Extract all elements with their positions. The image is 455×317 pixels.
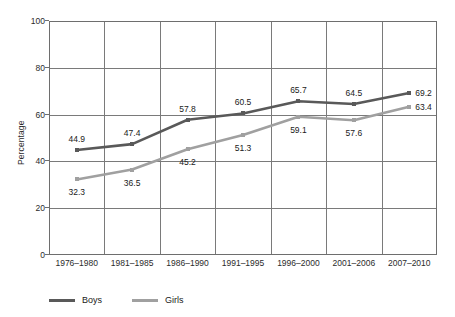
gridline-vertical [326, 22, 327, 254]
y-axis-tick-label: 60 [36, 111, 45, 120]
x-axis-tick-labels: 1976–19801981–19851986–19901991–19951996… [49, 259, 437, 275]
x-axis-tick-label: 1976–1980 [49, 259, 104, 268]
y-axis-tick-label: 20 [36, 204, 45, 213]
gridline-horizontal [50, 115, 436, 116]
y-axis-tick-label: 100 [31, 17, 45, 26]
legend-label: Girls [165, 296, 184, 305]
x-axis-tick-label: 1986–1990 [160, 259, 215, 268]
gridline-vertical [382, 22, 383, 254]
gridline-vertical [215, 22, 216, 254]
gridline-horizontal [50, 161, 436, 162]
gridline-vertical [271, 22, 272, 254]
y-axis-tick-label: 0 [40, 251, 45, 260]
y-axis-tick-label: 80 [36, 64, 45, 73]
x-axis-tick-label: 1996–2000 [271, 259, 326, 268]
line-chart: Percentage 020406080100 44.947.457.860.5… [0, 0, 455, 317]
x-axis-tick-label: 1991–1995 [215, 259, 270, 268]
x-axis-tick-label: 1981–1985 [104, 259, 159, 268]
legend-swatch-icon [132, 299, 158, 302]
gridline-vertical [104, 22, 105, 254]
legend-item-boys[interactable]: Boys [49, 296, 102, 305]
y-axis-tick-labels: 020406080100 [0, 0, 45, 317]
x-axis-tick-label: 2001–2006 [326, 259, 381, 268]
legend-swatch-icon [49, 299, 75, 302]
chart-legend: BoysGirls [49, 292, 214, 308]
gridline-vertical [160, 22, 161, 254]
plot-area [49, 21, 437, 255]
legend-item-girls[interactable]: Girls [132, 296, 184, 305]
gridline-horizontal [50, 68, 436, 69]
x-axis-tick-label: 2007–2010 [382, 259, 437, 268]
gridline-horizontal [50, 208, 436, 209]
legend-label: Boys [82, 296, 102, 305]
y-axis-tick-label: 40 [36, 157, 45, 166]
